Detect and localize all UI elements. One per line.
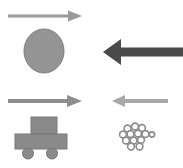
medium-right-arrow xyxy=(8,95,82,107)
cart-load-box xyxy=(31,117,57,134)
cart-body xyxy=(15,134,67,149)
bead-2 xyxy=(132,123,139,130)
thick-left-arrow xyxy=(103,39,183,65)
wheeled-cart xyxy=(15,117,67,159)
bead-9 xyxy=(123,137,130,144)
panel-bottom-left xyxy=(8,95,82,159)
pale-left-arrow-head xyxy=(112,95,125,107)
figure-canvas xyxy=(0,0,183,168)
bead-12 xyxy=(128,143,135,150)
thick-left-arrow-shaft xyxy=(120,48,183,57)
pale-left-arrow xyxy=(112,95,168,107)
panel-bottom-right xyxy=(112,95,168,150)
thin-right-arrow-head xyxy=(68,11,82,22)
cart-wheel-right xyxy=(47,148,58,159)
thick-left-arrow-head xyxy=(103,39,121,65)
pale-left-arrow-shaft xyxy=(124,99,168,103)
panel-top-left xyxy=(8,11,82,74)
cart-wheel-left xyxy=(23,148,34,159)
force-diagram-figure: Force and motion comparison panels ellip… xyxy=(0,0,183,168)
gray-ellipse xyxy=(24,29,64,73)
panel-top-right xyxy=(103,39,183,65)
bead-13 xyxy=(136,143,143,150)
medium-right-arrow-head xyxy=(67,95,82,107)
thin-right-arrow xyxy=(8,11,82,22)
bead-11 xyxy=(138,137,145,144)
medium-right-arrow-shaft xyxy=(8,99,70,103)
bead-8 xyxy=(149,132,154,137)
thin-right-arrow-shaft xyxy=(8,15,70,18)
bead-cluster xyxy=(120,123,155,150)
